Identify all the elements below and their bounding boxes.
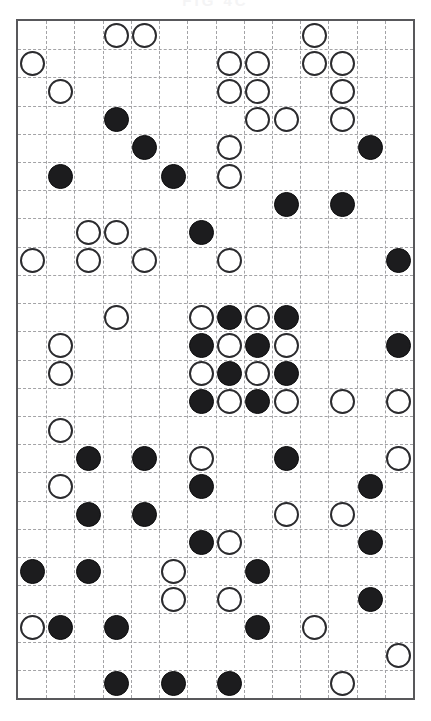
white-stone[interactable]: [217, 333, 242, 358]
white-stone[interactable]: [189, 361, 214, 386]
black-stone[interactable]: [386, 333, 411, 358]
white-stone[interactable]: [48, 418, 73, 443]
white-stone[interactable]: [274, 389, 299, 414]
white-stone[interactable]: [217, 164, 242, 189]
black-stone[interactable]: [189, 333, 214, 358]
white-stone[interactable]: [217, 587, 242, 612]
white-stone[interactable]: [189, 305, 214, 330]
white-stone[interactable]: [217, 248, 242, 273]
white-stone[interactable]: [217, 51, 242, 76]
white-stone[interactable]: [189, 446, 214, 471]
white-stone[interactable]: [20, 248, 45, 273]
white-stone[interactable]: [217, 79, 242, 104]
page-root: FIG 4C: [0, 0, 431, 721]
white-stone[interactable]: [104, 23, 129, 48]
white-stone[interactable]: [104, 220, 129, 245]
white-stone[interactable]: [386, 389, 411, 414]
stones-layer: [18, 21, 413, 698]
white-stone[interactable]: [48, 474, 73, 499]
white-stone[interactable]: [386, 643, 411, 668]
white-stone[interactable]: [48, 79, 73, 104]
white-stone[interactable]: [132, 23, 157, 48]
white-stone[interactable]: [302, 615, 327, 640]
white-stone[interactable]: [217, 135, 242, 160]
black-stone[interactable]: [20, 559, 45, 584]
black-stone[interactable]: [76, 559, 101, 584]
black-stone[interactable]: [217, 361, 242, 386]
white-stone[interactable]: [274, 107, 299, 132]
white-stone[interactable]: [132, 248, 157, 273]
white-stone[interactable]: [20, 51, 45, 76]
black-stone[interactable]: [76, 502, 101, 527]
white-stone[interactable]: [104, 305, 129, 330]
black-stone[interactable]: [274, 305, 299, 330]
white-stone[interactable]: [245, 79, 270, 104]
black-stone[interactable]: [189, 474, 214, 499]
white-stone[interactable]: [330, 51, 355, 76]
black-stone[interactable]: [161, 164, 186, 189]
black-stone[interactable]: [386, 248, 411, 273]
white-stone[interactable]: [330, 671, 355, 696]
black-stone[interactable]: [245, 333, 270, 358]
white-stone[interactable]: [20, 615, 45, 640]
black-stone[interactable]: [132, 446, 157, 471]
black-stone[interactable]: [189, 220, 214, 245]
white-stone[interactable]: [76, 248, 101, 273]
white-stone[interactable]: [330, 107, 355, 132]
black-stone[interactable]: [358, 587, 383, 612]
black-stone[interactable]: [104, 107, 129, 132]
black-stone[interactable]: [245, 389, 270, 414]
white-stone[interactable]: [330, 79, 355, 104]
white-stone[interactable]: [302, 23, 327, 48]
white-stone[interactable]: [161, 587, 186, 612]
white-stone[interactable]: [274, 502, 299, 527]
black-stone[interactable]: [217, 671, 242, 696]
black-stone[interactable]: [132, 135, 157, 160]
black-stone[interactable]: [104, 615, 129, 640]
black-stone[interactable]: [132, 502, 157, 527]
black-stone[interactable]: [245, 559, 270, 584]
black-stone[interactable]: [358, 135, 383, 160]
stone-grid-board[interactable]: [16, 19, 415, 700]
white-stone[interactable]: [274, 333, 299, 358]
white-stone[interactable]: [217, 389, 242, 414]
white-stone[interactable]: [330, 502, 355, 527]
white-stone[interactable]: [245, 305, 270, 330]
black-stone[interactable]: [217, 305, 242, 330]
black-stone[interactable]: [330, 192, 355, 217]
white-stone[interactable]: [245, 51, 270, 76]
white-stone[interactable]: [245, 107, 270, 132]
black-stone[interactable]: [274, 192, 299, 217]
white-stone[interactable]: [330, 389, 355, 414]
white-stone[interactable]: [217, 530, 242, 555]
white-stone[interactable]: [76, 220, 101, 245]
black-stone[interactable]: [245, 615, 270, 640]
white-stone[interactable]: [161, 559, 186, 584]
page-title: FIG 4C: [0, 0, 431, 8]
black-stone[interactable]: [274, 446, 299, 471]
white-stone[interactable]: [302, 51, 327, 76]
black-stone[interactable]: [104, 671, 129, 696]
white-stone[interactable]: [245, 361, 270, 386]
header-strip: FIG 4C: [0, 0, 431, 12]
black-stone[interactable]: [358, 474, 383, 499]
white-stone[interactable]: [48, 361, 73, 386]
black-stone[interactable]: [274, 361, 299, 386]
white-stone[interactable]: [48, 333, 73, 358]
black-stone[interactable]: [189, 530, 214, 555]
black-stone[interactable]: [161, 671, 186, 696]
white-stone[interactable]: [386, 446, 411, 471]
black-stone[interactable]: [48, 164, 73, 189]
black-stone[interactable]: [189, 389, 214, 414]
black-stone[interactable]: [76, 446, 101, 471]
black-stone[interactable]: [48, 615, 73, 640]
black-stone[interactable]: [358, 530, 383, 555]
